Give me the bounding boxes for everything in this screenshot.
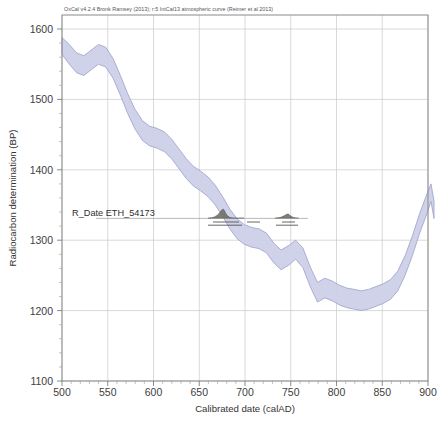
x-tick-label: 650 bbox=[190, 386, 208, 398]
plot-svg: OxCal v4.2.4 Bronk Ramsey (2013); r:5 In… bbox=[0, 0, 440, 432]
sample-label: R_Date ETH_54173 bbox=[72, 208, 155, 218]
x-tick-label: 500 bbox=[53, 386, 71, 398]
x-tick-label: 600 bbox=[145, 386, 163, 398]
oxcal-credit-text: OxCal v4.2.4 Bronk Ramsey (2013); r:5 In… bbox=[64, 6, 273, 12]
y-tick-label: 1400 bbox=[30, 164, 54, 176]
x-tick-label: 850 bbox=[373, 386, 391, 398]
y-tick-label: 1600 bbox=[30, 23, 54, 35]
y-tick-label: 1300 bbox=[30, 234, 54, 246]
x-tick-label: 900 bbox=[419, 386, 437, 398]
oxcal-calibration-plot: OxCal v4.2.4 Bronk Ramsey (2013); r:5 In… bbox=[0, 0, 440, 432]
x-tick-label: 750 bbox=[282, 386, 300, 398]
y-tick-label: 1100 bbox=[30, 375, 53, 387]
x-axis-tick-labels: 500 550 600 650 700 750 800 850 900 bbox=[53, 386, 437, 398]
x-axis-title: Calibrated date (calAD) bbox=[195, 403, 295, 414]
y-tick-label: 1500 bbox=[30, 93, 54, 105]
y-axis-title: Radiocarbon determination (BP) bbox=[7, 129, 18, 266]
x-tick-label: 700 bbox=[236, 386, 254, 398]
x-tick-label: 550 bbox=[99, 386, 117, 398]
y-tick-label: 1200 bbox=[30, 305, 54, 317]
x-tick-label: 800 bbox=[328, 386, 346, 398]
